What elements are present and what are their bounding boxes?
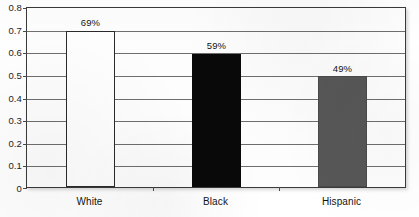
y-axis-tick xyxy=(23,31,27,32)
y-axis-tick xyxy=(23,188,27,189)
y-axis-tick-label: 0.7 xyxy=(8,24,22,35)
y-axis-tick-label: 0.1 xyxy=(8,160,22,171)
y-axis-tick xyxy=(23,99,27,100)
x-axis-category-label-black: Black xyxy=(203,196,228,207)
bar-hispanic xyxy=(318,76,367,187)
y-axis-tick-label: 0.6 xyxy=(8,47,22,58)
y-axis-tick xyxy=(23,166,27,167)
y-axis-tick-label: 0.4 xyxy=(8,92,22,103)
x-axis-tick xyxy=(153,187,154,191)
x-axis-category-label-white: White xyxy=(76,196,102,207)
y-axis-tick-label: 0 xyxy=(17,183,22,194)
y-axis-tick xyxy=(23,76,27,77)
y-axis-tick xyxy=(23,8,27,9)
y-axis-tick xyxy=(23,53,27,54)
y-axis-tick xyxy=(23,121,27,122)
y-axis-tick-label: 0.5 xyxy=(8,69,22,80)
bar-value-label-white: 69% xyxy=(81,17,100,28)
bar-value-label-black: 59% xyxy=(207,40,226,51)
bar-white xyxy=(66,31,115,187)
y-axis-tick xyxy=(23,144,27,145)
x-axis-tick xyxy=(279,187,280,191)
y-axis-tick-label: 0.8 xyxy=(8,2,22,13)
y-axis-tick-label: 0.3 xyxy=(8,115,22,126)
bar-black xyxy=(192,54,241,188)
plot-area: 69% 59% 49% xyxy=(26,7,406,188)
y-axis-tick-label: 0.2 xyxy=(8,137,22,148)
x-axis-category-label-hispanic: Hispanic xyxy=(322,196,361,207)
bar-value-label-hispanic: 49% xyxy=(333,63,352,74)
bar-chart: 0.8 0.7 0.6 0.5 0.4 0.3 0.2 0.1 0 69% 59… xyxy=(0,0,419,217)
